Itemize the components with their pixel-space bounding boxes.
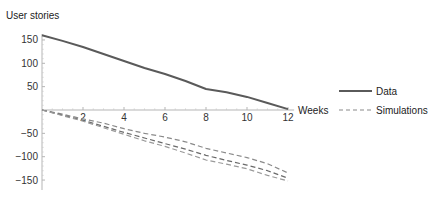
legend: Data Simulations	[339, 86, 428, 116]
data-line	[42, 35, 288, 109]
x-tick-label: 4	[121, 112, 127, 123]
x-tick-label: 6	[162, 112, 168, 123]
x-tick-label: 10	[241, 112, 253, 123]
y-tick-label: 50	[27, 81, 39, 92]
y-tick-label: −100	[15, 151, 38, 162]
y-tick-label: 100	[21, 58, 38, 69]
y-tick-label: 150	[21, 34, 38, 45]
y-axis-title: User stories	[6, 10, 59, 21]
x-axis-title: Weeks	[298, 105, 328, 116]
legend-data-label: Data	[376, 86, 398, 97]
legend-simulations-label: Simulations	[376, 105, 428, 116]
x-tick-label: 12	[282, 112, 294, 123]
y-tick-label: −150	[15, 175, 38, 186]
x-tick-label: 8	[203, 112, 209, 123]
y-tick-label: −50	[21, 128, 38, 139]
line-chart: 15010050−50−100−15024681012 User stories…	[0, 0, 443, 205]
